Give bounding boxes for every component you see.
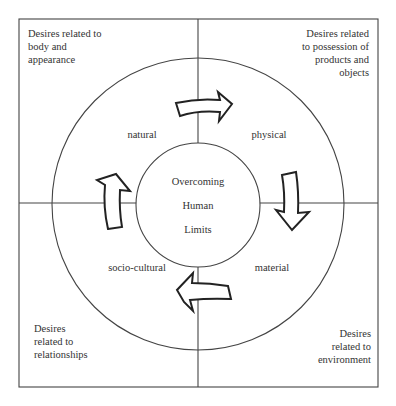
quadrant-top-right-line-4: objects: [339, 67, 369, 78]
quadrant-bottom-left-line-2: related to: [34, 336, 73, 347]
quadrant-top-right-line-3: products and: [315, 54, 370, 65]
ring-label-material: material: [255, 262, 289, 273]
quadrant-top-right-line-1: Desires related: [306, 28, 369, 39]
center-text-line-1: Overcoming: [172, 176, 225, 187]
quadrant-top-right-line-2: to possession of: [302, 41, 370, 52]
quadrant-bottom-right-line-2: related to: [332, 341, 371, 352]
quadrant-bottom-right-line-1: Desires: [340, 328, 372, 339]
quadrant-top-left-line-1: Desires related to: [28, 28, 101, 39]
center-text-line-3: Limits: [184, 224, 211, 235]
diagram-canvas: Overcoming Human Limits natural physical…: [0, 0, 396, 406]
quadrant-top-left-line-3: appearance: [28, 54, 76, 65]
quadrant-bottom-left-line-3: relationships: [34, 349, 88, 360]
ring-label-physical: physical: [252, 129, 287, 140]
quadrant-top-left-line-2: body and: [28, 41, 68, 52]
quadrant-bottom-left-line-1: Desires: [34, 323, 66, 334]
quadrant-bottom-right-line-3: environment: [318, 354, 371, 365]
ring-label-natural: natural: [127, 129, 156, 140]
ring-label-socio-cultural: socio-cultural: [108, 262, 166, 273]
center-text-line-2: Human: [183, 200, 215, 211]
